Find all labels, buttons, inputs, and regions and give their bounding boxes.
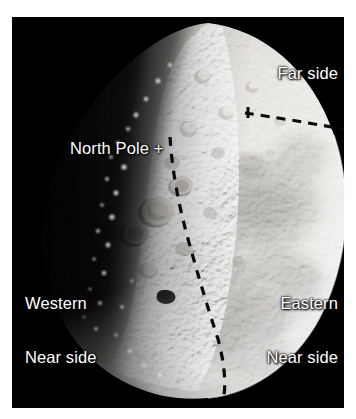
label-eastern-line1: Eastern — [266, 294, 338, 312]
label-eastern-line2: Near side — [266, 348, 338, 366]
label-eastern-near-side: Eastern Near side — [266, 258, 338, 402]
label-north-pole: North Pole + — [70, 103, 163, 193]
label-western-line2: Near side — [25, 348, 97, 366]
moon-figure: Far side North Pole + Western Near side … — [0, 0, 356, 419]
label-western-near-side: Western Near side — [25, 258, 97, 402]
label-far-side-text: Far side — [278, 64, 338, 82]
photo-plate: Far side North Pole + Western Near side … — [12, 17, 344, 408]
label-far-side: Far side — [278, 28, 338, 118]
label-north-pole-text: North Pole + — [70, 139, 163, 157]
label-western-line1: Western — [25, 294, 97, 312]
